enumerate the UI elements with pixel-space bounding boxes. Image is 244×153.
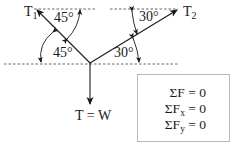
t1-label-main: T bbox=[24, 4, 33, 19]
t1-bottom-angle-arc bbox=[41, 32, 54, 62]
t2-label-main: T bbox=[183, 4, 192, 19]
equation-sum-f: ΣF = 0 bbox=[170, 86, 207, 100]
t2-top-angle-label: 30° bbox=[139, 10, 159, 24]
t1-bottom-angle-label: 45° bbox=[53, 46, 73, 60]
t2-bottom-angle-label: 30° bbox=[114, 46, 134, 60]
t1-label-subscript: 1 bbox=[33, 10, 38, 21]
equation-sum-fy-lhs: ΣF bbox=[165, 117, 180, 132]
weight-label: T = W bbox=[75, 109, 111, 123]
t1-top-angle-label: 45° bbox=[54, 11, 74, 25]
equation-sum-fy-subscript: y bbox=[180, 124, 185, 134]
equilibrium-equations-box: ΣF = 0 ΣFx = 0 ΣFy = 0 bbox=[137, 74, 230, 142]
t2-bottom-angle-arc bbox=[133, 38, 139, 62]
equation-sum-f-rhs: = 0 bbox=[185, 85, 206, 100]
t2-top-angle-arc bbox=[132, 11, 137, 34]
t2-label: T2 bbox=[183, 5, 197, 20]
equation-sum-fy: ΣFy = 0 bbox=[165, 118, 206, 133]
t2-label-subscript: 2 bbox=[192, 10, 197, 21]
equation-sum-f-lhs: ΣF bbox=[170, 85, 185, 100]
t1-label: T1 bbox=[24, 5, 38, 20]
equation-sum-fx-rhs: = 0 bbox=[185, 101, 206, 116]
equation-sum-fy-rhs: = 0 bbox=[185, 117, 206, 132]
equation-sum-fx-lhs: ΣF bbox=[165, 101, 180, 116]
equation-sum-fx: ΣFx = 0 bbox=[165, 102, 206, 117]
